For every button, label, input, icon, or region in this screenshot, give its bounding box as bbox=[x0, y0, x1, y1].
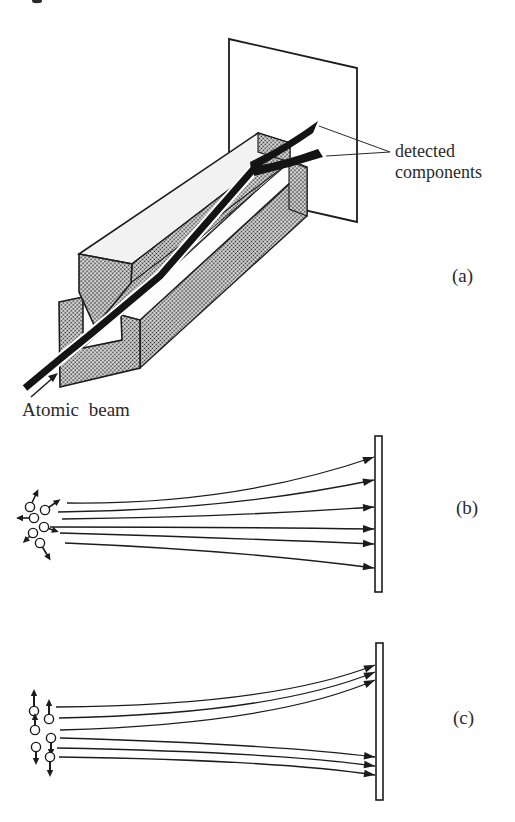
panel-label-b: (b) bbox=[456, 497, 478, 519]
panel-b-classical bbox=[16, 436, 382, 592]
detected-components-line1: detected bbox=[395, 141, 482, 162]
trajectory-arrowhead-icon bbox=[364, 761, 375, 769]
trajectory-arrowhead-icon bbox=[362, 457, 374, 464]
atom-circle bbox=[40, 505, 49, 514]
spin-arrowhead-icon bbox=[46, 699, 52, 706]
atom-circle bbox=[44, 714, 53, 723]
trajectory-line bbox=[57, 748, 375, 766]
trajectory-arrowhead-icon bbox=[363, 665, 375, 673]
panel-label-a: (a) bbox=[452, 265, 473, 287]
spin-arrowhead-icon bbox=[47, 770, 53, 777]
trajectory-arrowhead-icon bbox=[363, 540, 374, 548]
trajectory-line bbox=[62, 507, 374, 519]
atom-circle bbox=[45, 752, 54, 761]
spin-arrowhead-icon bbox=[16, 515, 23, 521]
trajectory-line bbox=[56, 665, 375, 707]
figure-stern-gerlach: detected components Atomic beam (a) (b) … bbox=[0, 0, 515, 822]
atom-circle bbox=[28, 528, 37, 537]
atomic-beam-label: Atomic beam bbox=[22, 399, 130, 421]
detected-components-line2: components bbox=[395, 162, 482, 183]
spin-arrowhead-icon bbox=[53, 499, 61, 506]
trajectory-line bbox=[67, 457, 374, 503]
trajectory-arrowhead-icon bbox=[363, 563, 374, 571]
trajectory-arrowhead-icon bbox=[364, 752, 375, 760]
trajectory-arrowhead-icon bbox=[363, 525, 374, 533]
trajectory-line bbox=[60, 533, 374, 544]
detector-screen-bar bbox=[375, 436, 382, 592]
panel-label-c: (c) bbox=[453, 707, 474, 729]
spin-arrowhead-icon bbox=[33, 758, 39, 765]
spin-arrowhead-icon bbox=[31, 689, 37, 696]
atom-circle bbox=[30, 725, 39, 734]
atom-circle bbox=[25, 502, 34, 511]
panel-c-quantum bbox=[29, 643, 383, 800]
trajectory-line bbox=[59, 757, 375, 775]
detected-components-label: detected components bbox=[395, 141, 482, 183]
trajectory-line bbox=[50, 527, 374, 529]
atom-circle bbox=[46, 733, 55, 742]
atom-circle bbox=[29, 706, 38, 715]
trajectory-arrowhead-icon bbox=[364, 770, 375, 778]
trajectory-line bbox=[65, 543, 374, 568]
trajectory-line bbox=[60, 738, 375, 757]
atom-circle bbox=[35, 538, 44, 547]
trajectory-arrowhead-icon bbox=[362, 479, 374, 486]
trajectory-line bbox=[58, 480, 374, 512]
atom-circle bbox=[29, 513, 38, 522]
trajectory-line bbox=[59, 672, 375, 718]
detector-screen-bar bbox=[376, 643, 383, 800]
scan-artifact bbox=[32, 0, 42, 3]
trajectory-arrowhead-icon bbox=[363, 680, 375, 688]
atom-circle bbox=[31, 742, 40, 751]
trajectory-arrowhead-icon bbox=[363, 672, 375, 680]
panel-a-apparatus bbox=[25, 0, 390, 397]
lower-magnet-end-face bbox=[289, 161, 307, 216]
atom-circle bbox=[39, 522, 48, 531]
